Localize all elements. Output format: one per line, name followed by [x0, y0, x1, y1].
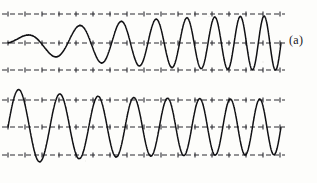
panel-label-a: (a): [289, 33, 303, 48]
waveform-panel-b: (b): [0, 88, 317, 183]
figure-container: (a) (b): [0, 0, 317, 183]
waveform-plot-b: [0, 88, 317, 183]
waveform-plot-a: [0, 0, 317, 91]
waveform-panel-a: (a): [0, 0, 317, 91]
